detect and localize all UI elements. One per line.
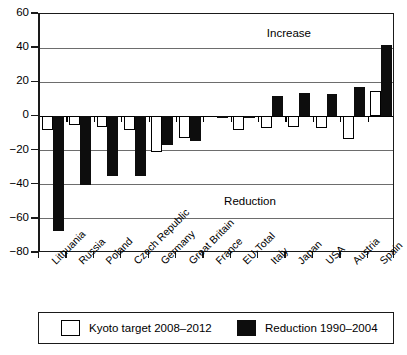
bar (179, 116, 190, 137)
zero-axis-tick (285, 117, 286, 122)
legend-item-reduction: Reduction 1990–2004 (237, 319, 378, 337)
bar (53, 116, 64, 230)
bar (272, 96, 283, 116)
y-tick-label: −40 (0, 178, 29, 190)
legend-swatch-white (61, 320, 80, 336)
zero-axis-tick (176, 117, 177, 122)
bar (327, 94, 338, 116)
y-tick-label: 40 (0, 41, 29, 53)
annotation-reduction: Reduction (224, 195, 276, 207)
y-tick-label: −60 (0, 212, 29, 224)
legend-item-kyoto-target: Kyoto target 2008–2012 (61, 319, 212, 337)
x-tick (148, 252, 149, 258)
gridline (39, 184, 393, 185)
bar (69, 116, 80, 125)
gridline (39, 82, 393, 83)
x-tick (202, 252, 203, 258)
bar (244, 116, 255, 118)
legend-swatch-black (237, 320, 256, 336)
x-tick (175, 252, 176, 258)
y-tick-label: 60 (0, 7, 29, 19)
y-tick (31, 251, 38, 252)
chart-legend: Kyoto target 2008–2012 Reduction 1990–20… (38, 312, 394, 344)
bar (124, 116, 135, 130)
x-tick (312, 252, 313, 258)
zero-axis-tick (313, 117, 314, 122)
y-tick (31, 115, 38, 116)
bar (80, 116, 91, 184)
bar (299, 93, 310, 116)
zero-axis-tick (340, 117, 341, 122)
y-tick-label: −80 (0, 246, 29, 258)
legend-label-kyoto-target: Kyoto target 2008–2012 (89, 322, 212, 334)
y-tick (31, 183, 38, 184)
bar (217, 116, 228, 118)
bar (135, 116, 146, 176)
y-tick (31, 12, 38, 13)
x-tick (120, 252, 121, 258)
zero-axis-tick (66, 117, 67, 122)
chart-root: 6040200−20−40−60−80 IncreaseReduction Li… (0, 0, 407, 355)
zero-axis-tick (258, 117, 259, 122)
bar (354, 87, 365, 116)
zero-axis-tick (94, 117, 95, 122)
zero-axis-tick (121, 117, 122, 122)
zero-axis-tick (231, 117, 232, 122)
bar (316, 116, 327, 128)
x-tick (339, 252, 340, 258)
bar (42, 116, 53, 130)
gridline (39, 150, 393, 151)
x-tick (393, 252, 394, 258)
x-tick (65, 252, 66, 258)
y-tick (31, 217, 38, 218)
x-tick (38, 252, 39, 258)
plot-inner: IncreaseReduction (39, 14, 393, 251)
legend-label-reduction: Reduction 1990–2004 (265, 322, 378, 334)
x-tick (284, 252, 285, 258)
zero-axis-tick (203, 117, 204, 122)
y-tick (31, 149, 38, 150)
x-tick (93, 252, 94, 258)
zero-axis-tick (149, 117, 150, 122)
y-tick (31, 81, 38, 82)
bar (343, 116, 354, 138)
bar (261, 116, 272, 127)
bar (370, 91, 381, 117)
y-tick-label: −20 (0, 144, 29, 156)
bar (190, 116, 201, 141)
gridline (39, 218, 393, 219)
bar (288, 116, 299, 126)
y-tick-label: 0 (0, 109, 29, 121)
bar (107, 116, 118, 176)
bar (162, 116, 173, 145)
bar (151, 116, 162, 152)
x-tick (367, 252, 368, 258)
zero-axis-tick (368, 117, 369, 122)
x-tick (257, 252, 258, 258)
y-tick-label: 20 (0, 75, 29, 87)
bar (233, 116, 244, 130)
x-tick (230, 252, 231, 258)
y-tick (31, 46, 38, 47)
y-axis-line (38, 13, 40, 252)
bar (97, 116, 108, 126)
plot-area: IncreaseReduction (38, 13, 394, 252)
gridline (39, 48, 393, 49)
bar (381, 45, 392, 117)
annotation-increase: Increase (267, 27, 311, 39)
